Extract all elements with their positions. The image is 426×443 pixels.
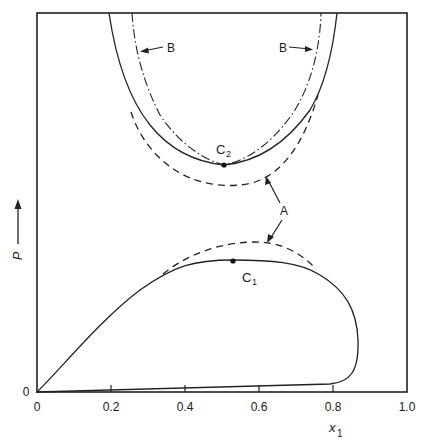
c1-label-sub: 1 (252, 277, 257, 287)
curve-a-dashed-dome (163, 242, 315, 274)
x-tick-label: 1.0 (399, 400, 416, 414)
y-zero-label: 0 (23, 385, 30, 399)
x-axis-label-sub: 1 (337, 428, 343, 439)
y-axis-arrow-icon (15, 199, 22, 244)
curve-a-dashed-u (131, 95, 318, 185)
c2-label: C (216, 142, 225, 157)
critical-point-c2 (221, 162, 226, 167)
x-tick-label: 0.2 (103, 400, 120, 414)
b-label-left: B (167, 41, 175, 55)
plot-frame (37, 13, 407, 392)
x-axis-label: x (328, 420, 336, 435)
a-arrow-down-icon (267, 220, 282, 243)
x-tick-label: 0 (34, 400, 41, 414)
curve-b-dash-dot (132, 13, 321, 165)
x-tick-label: 0.4 (177, 400, 194, 414)
c2-label-sub: 2 (226, 149, 231, 159)
critical-point-c1 (230, 258, 235, 263)
b-right-arrow-icon (289, 46, 313, 52)
x-tick-label: 0.6 (251, 400, 268, 414)
b-label-right: B (279, 41, 287, 55)
x-tick-label: 0.8 (325, 400, 342, 414)
y-axis-label: P (10, 251, 25, 260)
c1-label: C (242, 270, 251, 285)
a-label: A (280, 204, 288, 218)
a-arrow-up-icon (265, 176, 280, 203)
lower-critical-locus-solid (37, 260, 358, 392)
phase-diagram: 0 0.2 0.4 0.6 0.8 1.0 0 x 1 P C 1 C 2 B … (0, 0, 426, 443)
b-left-arrow-icon (140, 47, 163, 54)
